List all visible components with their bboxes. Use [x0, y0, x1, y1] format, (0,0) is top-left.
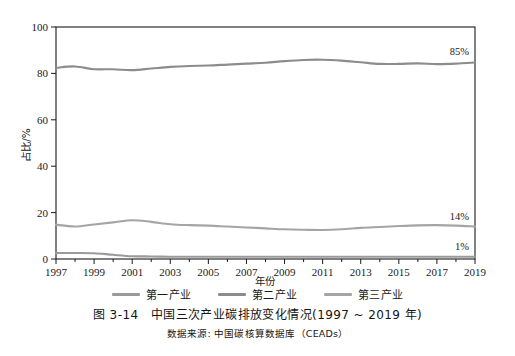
- legend-swatch-tertiary-industry: [324, 293, 352, 296]
- y-axis-tick-labels: 020406080100: [32, 21, 49, 265]
- value-label-tertiary-industry: 14%: [450, 211, 470, 222]
- chart-legend: 第一产业 第二产业 第三产业: [0, 286, 515, 302]
- legend-swatch-secondary-industry: [218, 293, 246, 296]
- x-tick-label: 1997: [45, 266, 68, 278]
- legend-item-tertiary-industry: 第三产业: [324, 286, 404, 302]
- figure-caption-title: 图 3-14 中国三次产业碳排放变化情况(1997 ~ 2019 年): [0, 306, 515, 324]
- y-tick-label: 20: [37, 207, 49, 219]
- value-label-primary-industry: 1%: [455, 241, 469, 252]
- y-tick-label: 0: [43, 253, 49, 265]
- legend-item-primary-industry: 第一产业: [112, 286, 192, 302]
- carbon-emission-line-chart: 020406080100 199719992001200320052007200…: [0, 0, 515, 356]
- x-tick-label: 2011: [312, 266, 334, 278]
- x-tick-label: 2003: [159, 266, 182, 278]
- legend-label-tertiary-industry: 第三产业: [358, 286, 404, 302]
- legend-item-secondary-industry: 第二产业: [218, 286, 298, 302]
- x-axis-ticks: [56, 259, 475, 264]
- legend-label-secondary-industry: 第二产业: [252, 286, 298, 302]
- figure-caption-block: 图 3-14 中国三次产业碳排放变化情况(1997 ~ 2019 年) 数据来源…: [0, 306, 515, 342]
- x-tick-label: 1999: [83, 266, 106, 278]
- x-tick-label: 2001: [121, 266, 143, 278]
- x-tick-label: 2015: [388, 266, 411, 278]
- x-tick-label: 2019: [464, 266, 487, 278]
- y-tick-label: 100: [32, 21, 49, 33]
- x-tick-label: 2017: [426, 266, 449, 278]
- x-tick-label: 2013: [350, 266, 373, 278]
- figure-caption-source: 数据来源: 中国碳核算数据库（CEADs）: [0, 326, 515, 342]
- figure-container: 020406080100 199719992001200320052007200…: [0, 0, 515, 356]
- legend-swatch-primary-industry: [112, 293, 140, 296]
- x-tick-label: 2009: [274, 266, 297, 278]
- value-label-secondary-industry: 85%: [450, 46, 470, 57]
- legend-label-primary-industry: 第一产业: [146, 286, 192, 302]
- y-tick-label: 60: [37, 114, 49, 126]
- y-tick-label: 80: [37, 67, 49, 79]
- y-axis-title: 占比/%: [20, 128, 32, 162]
- y-tick-label: 40: [37, 160, 49, 172]
- x-tick-label: 2005: [197, 266, 220, 278]
